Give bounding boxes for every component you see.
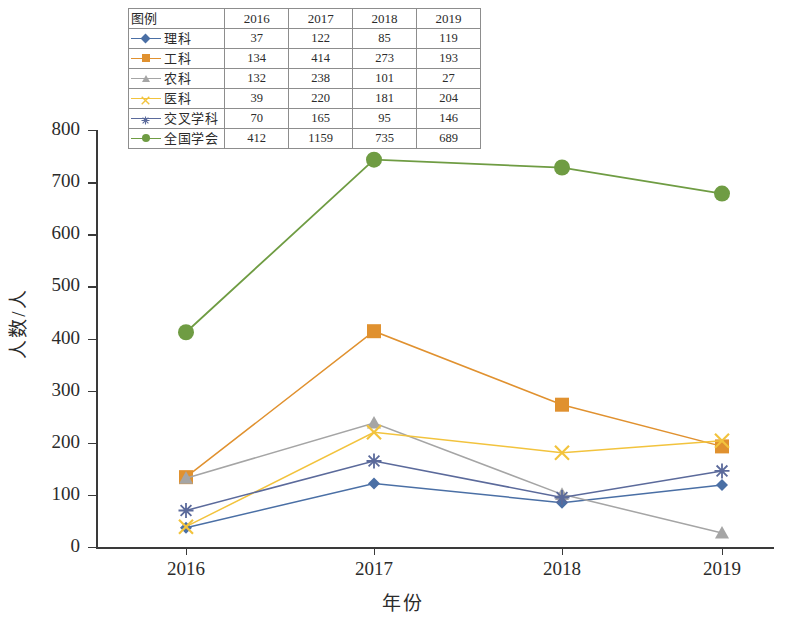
y-tick [88,130,96,131]
square-marker-icon [715,439,729,453]
column-header-2016: 2016 [225,9,289,29]
triangle-marker-icon [555,487,569,500]
cell-2017: 1159 [289,129,353,149]
cell-2019: 119 [417,29,481,49]
y-axis-line [96,130,98,548]
cross-marker-icon [715,434,729,448]
cell-2017: 220 [289,89,353,109]
circle-marker-icon [366,152,382,168]
cell-2019: 193 [417,49,481,69]
x-tick [722,547,723,555]
cell-2018: 95 [353,109,417,129]
y-tick [88,339,96,340]
cell-2017: 122 [289,29,353,49]
cross-marker-icon [367,425,381,439]
series-line [186,423,722,533]
cell-2018: 101 [353,69,417,89]
legend-entry-nongke: 农科 [129,69,225,89]
circle-marker-icon [131,132,161,145]
table-row: 医科 39 220 181 204 [129,89,481,109]
legend-label: 全国学会 [164,131,218,146]
legend-label: 农科 [164,71,191,86]
diamond-marker-icon [368,477,380,489]
cell-2016: 134 [225,49,289,69]
cell-2017: 165 [289,109,353,129]
star-marker-icon [555,490,570,505]
y-tick [88,391,96,392]
x-tick-label: 2016 [141,558,231,580]
y-tick-label: 700 [18,170,80,192]
diamond-marker-icon [180,522,192,534]
star-marker-icon [131,112,161,125]
triangle-marker-icon [179,471,193,484]
y-tick-label: 200 [18,431,80,453]
x-tick-label: 2017 [329,558,419,580]
series-工科 [179,324,729,484]
legend-entry-yike: 医科 [129,89,225,109]
series-line [186,461,722,511]
table-row: 交叉学科 70 165 95 146 [129,109,481,129]
series-农科 [179,416,729,539]
cell-2018: 85 [353,29,417,49]
square-marker-icon [179,470,193,484]
diamond-marker-icon [716,479,728,491]
y-tick-label: 800 [18,118,80,140]
legend-label: 医科 [164,91,191,106]
table-row: 理科 37 122 85 119 [129,29,481,49]
table-header-row: 图例 2016 2017 2018 2019 [129,9,481,29]
series-line [186,432,722,526]
cell-2016: 132 [225,69,289,89]
y-tick [88,495,96,496]
triangle-marker-icon [367,416,381,429]
cell-2018: 273 [353,49,417,69]
cell-2016: 70 [225,109,289,129]
x-tick-label: 2018 [517,558,607,580]
cell-2016: 37 [225,29,289,49]
cross-marker-icon [179,520,193,534]
y-tick [88,286,96,287]
x-tick [562,547,563,555]
square-marker-icon [555,398,569,412]
star-marker-icon [367,453,382,468]
triangle-marker-icon [131,72,161,85]
circle-marker-icon [554,160,570,176]
cell-2016: 39 [225,89,289,109]
series-医科 [179,425,729,533]
y-tick-label: 100 [18,483,80,505]
x-tick [374,547,375,555]
y-axis-title: 人数/人 [3,264,30,384]
cross-marker-icon [555,446,569,460]
cell-2017: 238 [289,69,353,89]
y-tick-label: 600 [18,222,80,244]
line-chart: 图例 2016 2017 2018 2019 理科 [0,0,806,617]
circle-marker-icon [178,324,194,340]
cell-2018: 735 [353,129,417,149]
diamond-marker-icon [556,497,568,509]
x-axis-title: 年份 [0,588,806,615]
legend-data-table: 图例 2016 2017 2018 2019 理科 [128,8,481,149]
legend-label: 工科 [164,51,191,66]
column-header-2017: 2017 [289,9,353,29]
legend-label: 交叉学科 [164,111,218,126]
cell-2016: 412 [225,129,289,149]
y-tick [88,234,96,235]
legend-entry-gongke: 工科 [129,49,225,69]
cell-2019: 689 [417,129,481,149]
table-row: 农科 132 238 101 27 [129,69,481,89]
diamond-marker-icon [131,32,161,45]
square-marker-icon [367,324,381,338]
series-全国学会 [178,152,730,341]
series-line [186,483,722,527]
x-tick [186,547,187,555]
star-marker-icon [715,463,730,478]
y-tick [88,443,96,444]
cell-2017: 414 [289,49,353,69]
legend-entry-quanguoxuehui: 全国学会 [129,129,225,149]
column-header-2019: 2019 [417,9,481,29]
legend-label: 理科 [164,31,191,46]
series-理科 [180,477,728,533]
circle-marker-icon [714,186,730,202]
x-axis-line [96,547,774,549]
legend-entry-jiaochaxueke: 交叉学科 [129,109,225,129]
series-line [186,331,722,477]
